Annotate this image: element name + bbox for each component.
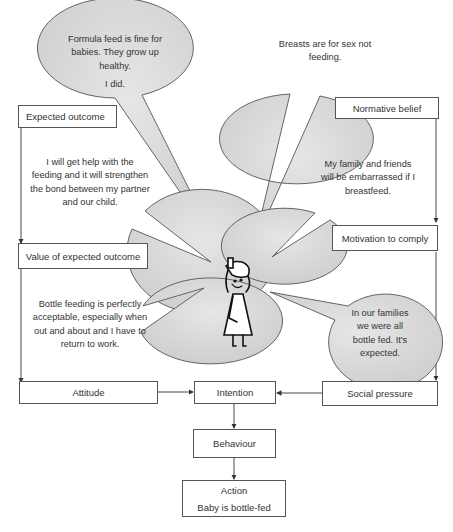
bubble-text-help: I will get help with the feeding and it … xyxy=(30,156,150,209)
box-intention: Intention xyxy=(194,381,276,404)
bubble-bottle-acceptable xyxy=(141,278,283,364)
bubble-help-text: I will get help with the feeding and it … xyxy=(30,156,150,209)
box-normative-belief: Normative belief xyxy=(335,97,439,119)
box-value-expected-outcome: Value of expected outcome xyxy=(18,243,148,269)
box-social-pressure: Social pressure xyxy=(322,381,438,406)
bubble-text-family: My family and friends will be embarrasse… xyxy=(318,158,418,198)
bubble-text-bottle-acceptable: Bottle feeding is perfectly acceptable, … xyxy=(30,298,150,351)
bubble-formula-line1: Formula feed is fine for babies. They gr… xyxy=(55,33,175,73)
box-motivation-to-comply: Motivation to comply xyxy=(332,225,438,251)
box-behaviour: Behaviour xyxy=(193,429,276,458)
box-expected-outcome: Expected outcome xyxy=(18,105,117,128)
bubble-text-breasts: Breasts are for sex not feeding. xyxy=(270,38,380,65)
bubble-family-text: My family and friends will be embarrasse… xyxy=(318,158,418,198)
bubble-text-families-bottle-fed: In our families we were all bottle fed. … xyxy=(347,307,413,360)
box-attitude: Attitude xyxy=(19,381,158,404)
box-action: Action Baby is bottle-fed xyxy=(182,480,286,517)
bubble-text-formula: Formula feed is fine for babies. They gr… xyxy=(55,33,175,91)
action-detail: Baby is bottle-fed xyxy=(197,499,270,516)
action-title: Action xyxy=(221,482,247,499)
bubble-families-bottle-fed-text: In our families we were all bottle fed. … xyxy=(347,307,413,360)
bubble-bottle-acceptable-text: Bottle feeding is perfectly acceptable, … xyxy=(30,298,150,351)
bubble-breasts-text: Breasts are for sex not feeding. xyxy=(270,38,380,65)
bubble-formula-line2: I did. xyxy=(55,78,175,91)
